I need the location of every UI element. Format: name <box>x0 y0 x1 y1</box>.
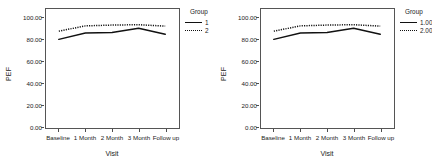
y-tick-label: 40.00 <box>223 80 257 87</box>
x-tick-mark <box>381 129 382 132</box>
legend-swatch-solid-icon <box>185 21 202 25</box>
x-tick-mark <box>58 129 59 132</box>
x-tick-label: Follow up <box>368 134 394 141</box>
legend-item[interactable]: 2.00 <box>400 27 432 34</box>
y-tick-mark <box>256 83 259 84</box>
left-panel: PEF 100.00 80.00 60.00 40.00 20.00 0.00 … <box>0 0 215 167</box>
y-tick-label: 80.00 <box>223 36 257 43</box>
y-tick-mark <box>41 127 44 128</box>
y-tick-mark <box>41 105 44 106</box>
x-tick-label: Baseline <box>46 134 70 141</box>
legend-item[interactable]: 2 <box>185 27 209 34</box>
series-line-solid <box>59 28 165 39</box>
x-tick-mark <box>273 129 274 132</box>
x-tick-mark <box>85 129 86 132</box>
y-axis-ticks-right: 100.00 80.00 60.00 40.00 20.00 0.00 <box>221 0 257 167</box>
y-tick-mark <box>256 17 259 18</box>
x-tick-mark <box>166 129 167 132</box>
y-tick-mark <box>256 39 259 40</box>
y-axis-ticks-left: 100.00 80.00 60.00 40.00 20.00 0.00 <box>6 0 42 167</box>
y-tick-mark <box>256 61 259 62</box>
x-axis-title-left: Visit <box>105 150 118 157</box>
y-tick-mark <box>41 39 44 40</box>
legend-item-label: 2 <box>205 27 209 34</box>
legend-swatch-dotted-icon <box>400 29 417 33</box>
legend-item-label: 1.00 <box>420 19 432 26</box>
y-tick-mark <box>256 105 259 106</box>
y-tick-label: 60.00 <box>223 58 257 65</box>
y-tick-label: 0.00 <box>8 124 42 131</box>
legend-title: Group <box>190 8 208 15</box>
x-axis-title-right: Visit <box>320 150 333 157</box>
x-tick-label: 1 Month <box>289 134 311 141</box>
legend-item[interactable]: 1 <box>185 19 209 26</box>
x-tick-label: Follow up <box>153 134 179 141</box>
x-tick-label: 2 Month <box>316 134 338 141</box>
series-line-solid <box>274 28 380 39</box>
y-tick-label: 40.00 <box>8 80 42 87</box>
x-tick-mark <box>112 129 113 132</box>
x-tick-mark <box>300 129 301 132</box>
legend-title: Group <box>405 8 423 15</box>
line-chart-left <box>46 9 179 128</box>
legend-item[interactable]: 1.00 <box>400 19 432 26</box>
y-tick-label: 80.00 <box>8 36 42 43</box>
y-tick-mark <box>41 61 44 62</box>
legend-swatch-dotted-icon <box>185 29 202 33</box>
y-tick-label: 0.00 <box>223 124 257 131</box>
right-panel: PEF 100.00 80.00 60.00 40.00 20.00 0.00 … <box>215 0 430 167</box>
x-tick-label: 3 Month <box>128 134 150 141</box>
legend-swatch-solid-icon <box>400 21 417 25</box>
y-tick-label: 60.00 <box>8 58 42 65</box>
legend-item-label: 2.00 <box>420 27 432 34</box>
x-tick-mark <box>327 129 328 132</box>
y-tick-mark <box>41 17 44 18</box>
legend-item-label: 1 <box>205 19 209 26</box>
line-chart-right <box>261 9 394 128</box>
y-tick-label: 20.00 <box>223 102 257 109</box>
x-tick-label: 1 Month <box>74 134 96 141</box>
x-tick-mark <box>139 129 140 132</box>
x-tick-label: 2 Month <box>101 134 123 141</box>
y-tick-label: 100.00 <box>223 14 257 21</box>
plot-area-right <box>260 8 395 129</box>
y-tick-mark <box>41 83 44 84</box>
x-tick-label: 3 Month <box>343 134 365 141</box>
x-tick-label: Baseline <box>261 134 285 141</box>
x-tick-mark <box>354 129 355 132</box>
y-tick-label: 20.00 <box>8 102 42 109</box>
y-tick-label: 100.00 <box>8 14 42 21</box>
y-tick-mark <box>256 127 259 128</box>
plot-area-left <box>45 8 180 129</box>
